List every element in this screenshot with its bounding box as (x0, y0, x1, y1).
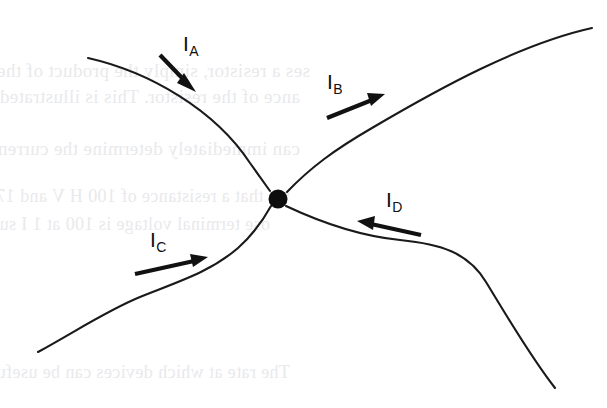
current-label-d: ID (386, 188, 402, 212)
current-symbol-b: I (327, 70, 333, 93)
current-label-c: IC (150, 228, 166, 252)
arrow-head-b (367, 93, 385, 106)
current-subscript-a: A (189, 43, 198, 59)
current-symbol-a: I (183, 32, 189, 55)
arrow-head-c (190, 254, 208, 267)
current-subscript-d: D (392, 199, 402, 215)
current-arrow-c (135, 254, 208, 274)
current-arrow-d (357, 216, 421, 235)
wire-upper-right (287, 28, 592, 192)
current-junction-figure: ses a resistor, simply the product of th… (0, 0, 607, 408)
current-label-b: IB (327, 70, 342, 94)
current-subscript-c: C (156, 239, 166, 255)
current-label-a: IA (183, 32, 198, 56)
current-subscript-b: B (333, 81, 342, 97)
junction-node (269, 190, 288, 209)
arrow-head-d (357, 216, 375, 230)
wire-upper-left (88, 58, 270, 191)
current-symbol-c: I (150, 228, 156, 251)
current-arrow-a (160, 55, 196, 92)
wire-group (38, 28, 592, 388)
current-symbol-d: I (386, 188, 392, 211)
diagram-canvas (0, 0, 607, 408)
